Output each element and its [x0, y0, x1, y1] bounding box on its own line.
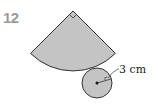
sector-shape: [31, 11, 116, 71]
cone-net-diagram: r 3 cm: [0, 0, 158, 105]
base-circle: r: [82, 68, 112, 98]
radius-label: 3 cm: [119, 63, 147, 76]
